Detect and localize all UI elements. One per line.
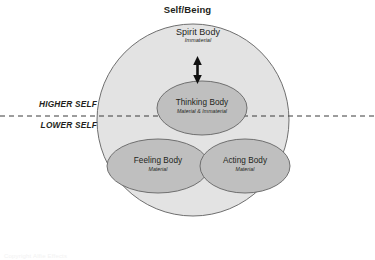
diagram-title: Self/Being: [0, 5, 375, 15]
lower-self-label: LOWER SELF: [0, 120, 97, 130]
thinking-body-qualifier: Material & Immaterial: [142, 109, 262, 114]
self-being-diagram: Self/Being Spirit Body Immaterial Thinki…: [0, 0, 375, 260]
higher-self-label: HIGHER SELF: [0, 99, 97, 109]
thinking-body-name: Thinking Body: [142, 99, 262, 108]
acting-body-label: Acting Body Material: [185, 157, 305, 172]
acting-body-name: Acting Body: [185, 157, 305, 166]
thinking-body-label: Thinking Body Material & Immaterial: [142, 99, 262, 114]
spirit-body-name: Spirit Body: [138, 28, 258, 37]
footer-caption: Copyright Alfie Effects: [4, 253, 67, 259]
spirit-body-qualifier: Immaterial: [138, 38, 258, 44]
spirit-body-label: Spirit Body Immaterial: [138, 28, 258, 44]
acting-body-qualifier: Material: [185, 167, 305, 172]
